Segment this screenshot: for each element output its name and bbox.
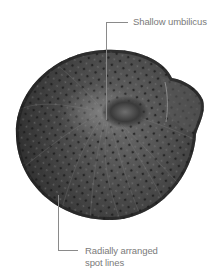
umbilicus-leader-horizontal <box>106 22 128 23</box>
shell-photo <box>0 0 224 275</box>
shell-body <box>0 0 224 275</box>
spot-lines-leader-vertical <box>58 195 59 251</box>
figure: Shallow umbilicus Radially arranged spot… <box>0 0 224 275</box>
spot-lines-label-line1: Radially arranged <box>85 245 158 256</box>
umbilicus-label: Shallow umbilicus <box>133 16 207 27</box>
umbilicus-leader-vertical <box>106 22 107 120</box>
spot-lines-label-line2: spot lines <box>85 257 124 268</box>
spot-lines-leader-horizontal <box>58 250 78 251</box>
